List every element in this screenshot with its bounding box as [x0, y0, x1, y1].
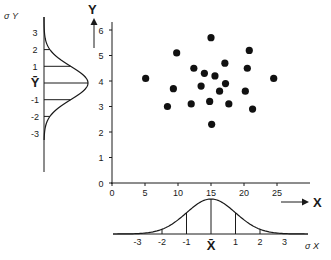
scatter-point: [206, 98, 213, 105]
scatter-point: [211, 72, 218, 79]
marginal-y-curve: [44, 17, 88, 140]
scatter-axes: 0123456 0510152025: [98, 22, 310, 198]
y-tick-label: 4: [98, 77, 103, 87]
scatter-point: [201, 70, 208, 77]
x-ticks: 0510152025: [109, 183, 282, 198]
sigma-y-text: σ Y: [4, 11, 19, 21]
scatter-point: [190, 65, 197, 72]
y-ticks: 0123456: [98, 26, 112, 189]
sigma-x-text: σ X: [305, 241, 320, 251]
scatter-point: [198, 83, 205, 90]
marginal-y-distribution: 321Ȳ-1-2-3: [31, 17, 88, 172]
sigma-y-label: σ Y: [4, 11, 19, 21]
y-tick-label: 6: [98, 26, 103, 36]
y-tick-label: 5: [98, 51, 103, 61]
scatter-point: [221, 60, 228, 67]
joint-distribution-figure: 0123456 0510152025 Y X 321Ȳ-1-2-3 σ Y -3…: [0, 0, 331, 260]
x-tick-label: 25: [272, 188, 282, 198]
x-sigma-label: X̄: [207, 238, 216, 253]
scatter-point: [270, 75, 277, 82]
scatter-point: [249, 105, 256, 112]
marginal-y-sigma-lines: 321Ȳ-1-2-3: [31, 28, 88, 138]
scatter-point: [225, 100, 232, 107]
scatter-point: [173, 49, 180, 56]
y-sigma-label: 3: [32, 28, 37, 38]
y-axis-arrow: [91, 18, 98, 48]
x-axis-label: X: [313, 195, 322, 210]
scatter-point: [242, 88, 249, 95]
y-axis-label: Y: [88, 2, 97, 17]
scatter-point: [244, 65, 251, 72]
scatter-point: [208, 121, 215, 128]
scatter-point: [164, 103, 171, 110]
sigma-x-label: σ X: [305, 241, 320, 251]
y-sigma-label: -3: [31, 129, 39, 139]
x-tick-label: 0: [109, 188, 114, 198]
y-tick-label: 2: [98, 128, 103, 138]
y-tick-label: 0: [98, 179, 103, 189]
y-sigma-label: 2: [32, 45, 37, 55]
x-tick-label: 10: [173, 188, 183, 198]
scatter-points: [142, 34, 277, 128]
scatter-point: [142, 75, 149, 82]
y-sigma-label: Ȳ: [31, 75, 40, 90]
marginal-x-sigma-lines: -3-2-1X̄123: [133, 199, 287, 253]
marginal-x-distribution: -3-2-1X̄123: [113, 199, 308, 253]
scatter-point: [188, 100, 195, 107]
x-tick-label: 5: [142, 188, 147, 198]
y-sigma-label: -2: [31, 112, 39, 122]
x-axis-arrow: [281, 199, 309, 206]
y-sigma-label: 1: [32, 62, 37, 72]
x-sigma-label: 3: [282, 237, 287, 247]
x-sigma-label: 1: [233, 237, 238, 247]
x-sigma-label: -2: [158, 237, 166, 247]
y-sigma-label: -1: [31, 95, 39, 105]
y-tick-label: 1: [98, 153, 103, 163]
scatter-point: [222, 80, 229, 87]
scatter-point: [170, 85, 177, 92]
x-tick-label: 15: [206, 188, 216, 198]
x-sigma-label: -3: [133, 237, 141, 247]
y-tick-label: 3: [98, 102, 103, 112]
scatter-point: [246, 47, 253, 54]
x-tick-label: 20: [239, 188, 249, 198]
scatter-point: [216, 88, 223, 95]
scatter-point: [207, 34, 214, 41]
x-sigma-label: 2: [257, 237, 262, 247]
x-sigma-label: -1: [182, 237, 190, 247]
